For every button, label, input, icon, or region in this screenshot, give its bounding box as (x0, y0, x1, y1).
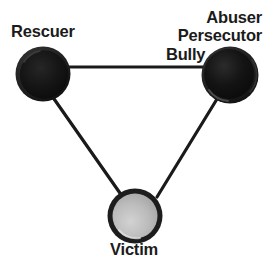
node-victim[interactable] (108, 189, 163, 244)
node-label-rescuer: Rescuer (11, 22, 75, 40)
node-label-bully: Bully (166, 45, 205, 63)
drama-triangle-diagram: Rescuer Abuser Persecutor Bully Victim (0, 0, 270, 267)
node-rescuer[interactable] (16, 47, 71, 102)
node-label-victim: Victim (110, 240, 158, 258)
diagram-edges (43, 67, 230, 197)
node-label-abuser: Abuser (178, 8, 262, 26)
node-abuser[interactable] (202, 47, 259, 104)
node-label-abuser-group: Abuser Persecutor (178, 8, 262, 44)
node-label-persecutor: Persecutor (178, 26, 262, 44)
edge-rescuer-victim (52, 96, 122, 196)
node-abuser-body (204, 49, 254, 99)
edge-abuser-victim (157, 99, 217, 197)
